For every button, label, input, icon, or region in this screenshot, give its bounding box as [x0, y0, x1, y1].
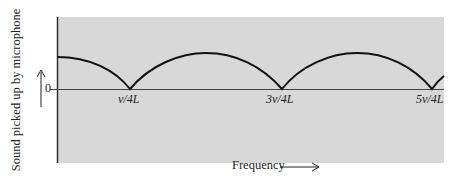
tick-5v-4L: 5v/4L	[416, 92, 443, 107]
y-axis-label: Sound picked up by microphone	[6, 10, 26, 170]
x-axis-label: Frequency	[232, 158, 285, 173]
chart-svg	[0, 0, 469, 182]
tick-v-4L: v/4L	[118, 92, 139, 107]
y-axis-label-text: Sound picked up by microphone	[9, 9, 24, 171]
zero-label: 0	[45, 81, 51, 96]
tick-3v-4L: 3v/4L	[266, 92, 293, 107]
